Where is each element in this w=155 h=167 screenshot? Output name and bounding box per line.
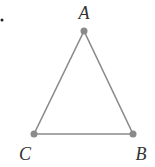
point-b xyxy=(130,131,137,138)
label-c: C xyxy=(19,144,32,164)
stray-dot xyxy=(1,19,4,22)
label-a: A xyxy=(78,3,91,23)
point-c xyxy=(31,131,38,138)
triangle-diagram: A B C xyxy=(0,0,155,167)
label-b: B xyxy=(136,144,147,164)
point-a xyxy=(81,28,88,35)
side-ab xyxy=(84,31,133,134)
side-ac xyxy=(34,31,84,134)
